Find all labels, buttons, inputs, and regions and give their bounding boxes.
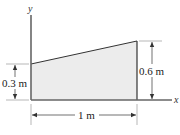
right-height-label: 0.6 m xyxy=(139,65,165,77)
x-axis-label: x xyxy=(173,94,179,105)
y-axis-label: y xyxy=(27,3,33,14)
width-label: 1 m xyxy=(78,109,95,121)
trapezoid-area xyxy=(31,41,137,100)
trapezoid-diagram: y x 0.3 m 0.6 m 1 m xyxy=(0,0,180,135)
left-height-label: 0.3 m xyxy=(2,77,28,89)
